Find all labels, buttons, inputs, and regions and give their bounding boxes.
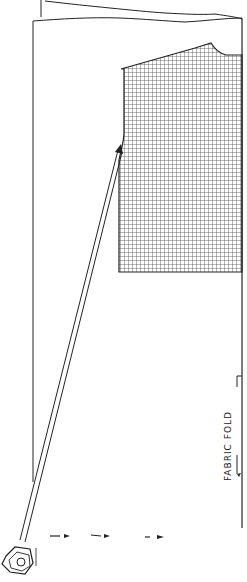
hex-nut — [2, 547, 36, 574]
fabric-fold-label: FABRIC FOLD — [222, 376, 234, 516]
diagram-canvas — [0, 0, 247, 582]
back-sheet — [41, 0, 242, 19]
fold-bracket — [237, 376, 242, 477]
dash-marks — [50, 534, 164, 539]
double-line-arrow — [20, 144, 123, 542]
pattern-diagram: FABRIC FOLD — [0, 0, 247, 582]
checked-bodice-piece — [119, 43, 242, 272]
